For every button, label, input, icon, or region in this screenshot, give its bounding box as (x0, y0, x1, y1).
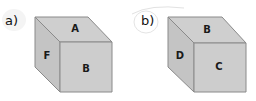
figure-b: b) B D C (132, 7, 246, 92)
figure-b-label: b) (141, 13, 154, 28)
cube-b-top-label: B (203, 24, 211, 35)
cube-a-front-label: B (82, 63, 90, 74)
cube-a-top-label: A (71, 23, 79, 34)
cube-diagrams: a) A F B b) B D C (0, 0, 256, 101)
cube-b-left-label: D (176, 50, 184, 61)
cube-b-front-label: C (215, 61, 222, 72)
figure-a-label: a) (5, 13, 18, 28)
cube-a-left-label: F (44, 50, 51, 61)
figure-a: a) A F B (2, 9, 112, 92)
